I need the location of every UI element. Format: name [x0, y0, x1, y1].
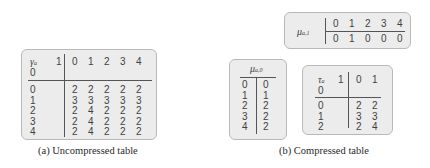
subscript: a,0 [255, 67, 263, 73]
header-divider [315, 97, 381, 98]
table-cell: 2 [356, 101, 362, 111]
table-cell: 1 [263, 91, 269, 101]
table-cell: 3 [356, 112, 362, 122]
table-cell: 0 [397, 34, 403, 44]
table-cell: 2 [104, 106, 110, 116]
table-cell: 2 [72, 127, 78, 137]
row-header: 0 [318, 101, 324, 111]
table-cell: 3 [136, 96, 142, 106]
table-cell: 2 [263, 122, 269, 132]
column-header: 2 [365, 19, 371, 29]
table-cell: 2 [120, 117, 126, 127]
row-header: 2 [318, 122, 324, 132]
mu-a0-table: μa,0 0011223242 [229, 59, 287, 140]
caption-compressed: (b) Compressed table [279, 145, 369, 156]
row-header: 2 [30, 106, 36, 116]
row-header: 1 [30, 96, 36, 106]
column-header: 1 [88, 57, 94, 67]
header-divider [240, 77, 276, 78]
mu1-symbol: μa,1 [297, 27, 310, 38]
table-cell: 2 [120, 85, 126, 95]
row-header: 1 [242, 91, 248, 101]
table-cell: 3 [120, 96, 126, 106]
corner-top: 1 [56, 57, 62, 67]
row-header: 4 [242, 122, 248, 132]
header-divider [28, 80, 152, 81]
column-divider [256, 77, 257, 134]
mu-a1-table: μa,1 0123401000 [284, 12, 411, 49]
table-cell: 3 [72, 96, 78, 106]
column-header: 2 [104, 57, 110, 67]
table-cell: 2 [72, 106, 78, 116]
table-cell: 2 [263, 112, 269, 122]
subscript: a,1 [302, 30, 310, 36]
column-divider [348, 72, 349, 128]
table-cell: 2 [136, 85, 142, 95]
column-header: 4 [397, 19, 403, 29]
row-header: 0 [242, 80, 248, 90]
table-cell: 2 [72, 117, 78, 127]
mu0-symbol: μa,0 [250, 64, 263, 75]
column-header: 0 [356, 75, 362, 85]
table-cell: 3 [104, 96, 110, 106]
table-cell: 0 [263, 80, 269, 90]
caption-uncompressed: (a) Uncompressed table [38, 145, 138, 156]
column-divider [64, 54, 65, 137]
column-header: 1 [349, 19, 355, 29]
table-cell: 2 [104, 117, 110, 127]
table-cell: 4 [88, 117, 94, 127]
subscript: a [322, 78, 325, 84]
table-cell: 2 [356, 122, 362, 132]
uncompressed-table: γa 1 0 01234 022222133333224222324222424… [21, 49, 157, 140]
corner-top: 1 [338, 75, 344, 85]
row-header: 3 [30, 117, 36, 127]
column-header: 1 [372, 75, 378, 85]
table-cell: 4 [372, 122, 378, 132]
row-header: 1 [318, 112, 324, 122]
table-cell: 2 [104, 85, 110, 95]
column-header: 3 [381, 19, 387, 29]
table-cell: 2 [136, 127, 142, 137]
table-cell: 2 [88, 85, 94, 95]
table-cell: 2 [72, 85, 78, 95]
table-cell: 1 [349, 34, 355, 44]
table-cell: 3 [372, 112, 378, 122]
table-cell: 2 [263, 101, 269, 111]
row-header: 2 [242, 101, 248, 111]
table-cell: 2 [120, 127, 126, 137]
table-cell: 4 [88, 127, 94, 137]
table-cell: 0 [365, 34, 371, 44]
row-header: 3 [242, 112, 248, 122]
tau-table: τa 1 0 01022133224 [302, 65, 393, 135]
subscript: a [34, 60, 37, 66]
column-header: 0 [72, 57, 78, 67]
column-header: 4 [136, 57, 142, 67]
table-cell: 0 [381, 34, 387, 44]
corner-bottom: 0 [30, 68, 36, 78]
row-header: 0 [30, 85, 36, 95]
table-cell: 2 [136, 106, 142, 116]
table-cell: 3 [88, 96, 94, 106]
row-header: 4 [30, 127, 36, 137]
table-cell: 2 [104, 127, 110, 137]
row-divider [325, 31, 405, 32]
column-header: 3 [120, 57, 126, 67]
corner-bottom: 0 [318, 86, 324, 96]
table-cell: 2 [136, 117, 142, 127]
table-cell: 4 [88, 106, 94, 116]
table-cell: 2 [120, 106, 126, 116]
table-cell: 2 [372, 101, 378, 111]
column-header: 0 [333, 19, 339, 29]
table-cell: 0 [333, 34, 339, 44]
